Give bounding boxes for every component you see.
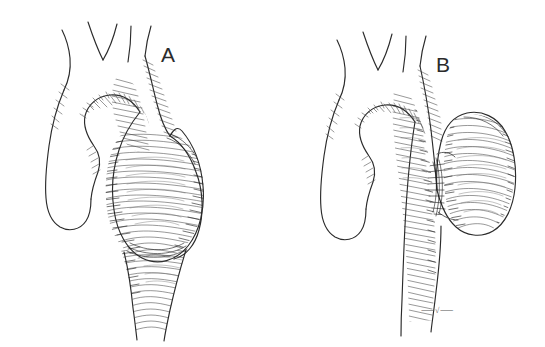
panel-b-descending-aorta-lower-right (431, 226, 441, 332)
panel-b-drawing: B ⸺√⸺ (321, 32, 518, 336)
panel-a-drawing: A (46, 22, 207, 341)
panel-a-descending-aorta-left (124, 252, 137, 340)
panel-a-outer-left-contour (46, 90, 91, 230)
panel-a-arch-hatching (80, 93, 152, 130)
panel-a-descending-hatching (118, 249, 188, 330)
panel-a-branch-vessels (62, 22, 151, 90)
panel-b-descending-aorta-left-wall (401, 122, 415, 336)
artist-signature: ⸺√⸺ (421, 306, 454, 315)
panel-b-outer-left-contour (321, 100, 366, 240)
panel-a-ascending-hatching (112, 78, 150, 155)
panel-b-arch-underside-feathering (355, 102, 384, 184)
panel-a-aneurysm-hatching (99, 130, 207, 259)
aortic-aneurysm-figure: A (0, 0, 545, 347)
panel-a-ascending-feathering (143, 60, 178, 137)
panel-b-label: B (436, 53, 450, 76)
panel-b-branch-vessels (337, 32, 426, 100)
illustration-canvas: A (0, 0, 545, 347)
panel-b-saccular-hatching (438, 113, 518, 231)
panel-b-upper-wall-feathering (418, 70, 442, 141)
panel-b-sac-aorta-crease (433, 158, 442, 216)
panel-a-descending-aorta-right (164, 250, 186, 341)
panel-b-aneurysm-neck-lower (438, 212, 458, 220)
panel-a-label: A (161, 43, 175, 66)
